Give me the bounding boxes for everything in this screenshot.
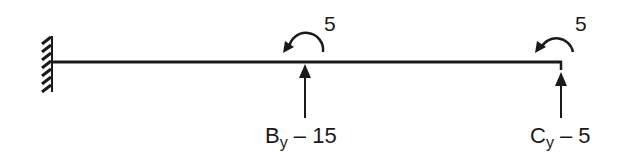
reaction-c-subscript: y	[546, 134, 554, 151]
reaction-c-value: – 5	[554, 123, 591, 148]
beam-diagram: 5 5 By – 15 Cy – 5	[0, 0, 620, 164]
reaction-b-label: By – 15	[265, 123, 337, 149]
moment-b-value: 5	[324, 12, 336, 36]
reaction-b-subscript: y	[280, 134, 288, 151]
reaction-b-value: – 15	[288, 123, 337, 148]
reaction-b-symbol: B	[265, 123, 280, 148]
moment-c-value: 5	[575, 12, 587, 36]
moment-arrow-b-icon	[283, 33, 323, 53]
reaction-c-label: Cy – 5	[530, 123, 591, 149]
moment-arrow-c-icon	[535, 38, 573, 53]
beam	[52, 61, 562, 70]
reaction-arrow-c-icon	[555, 72, 567, 118]
reaction-arrow-b-icon	[299, 64, 311, 118]
reaction-c-symbol: C	[530, 123, 546, 148]
fixed-support-icon	[42, 36, 52, 92]
